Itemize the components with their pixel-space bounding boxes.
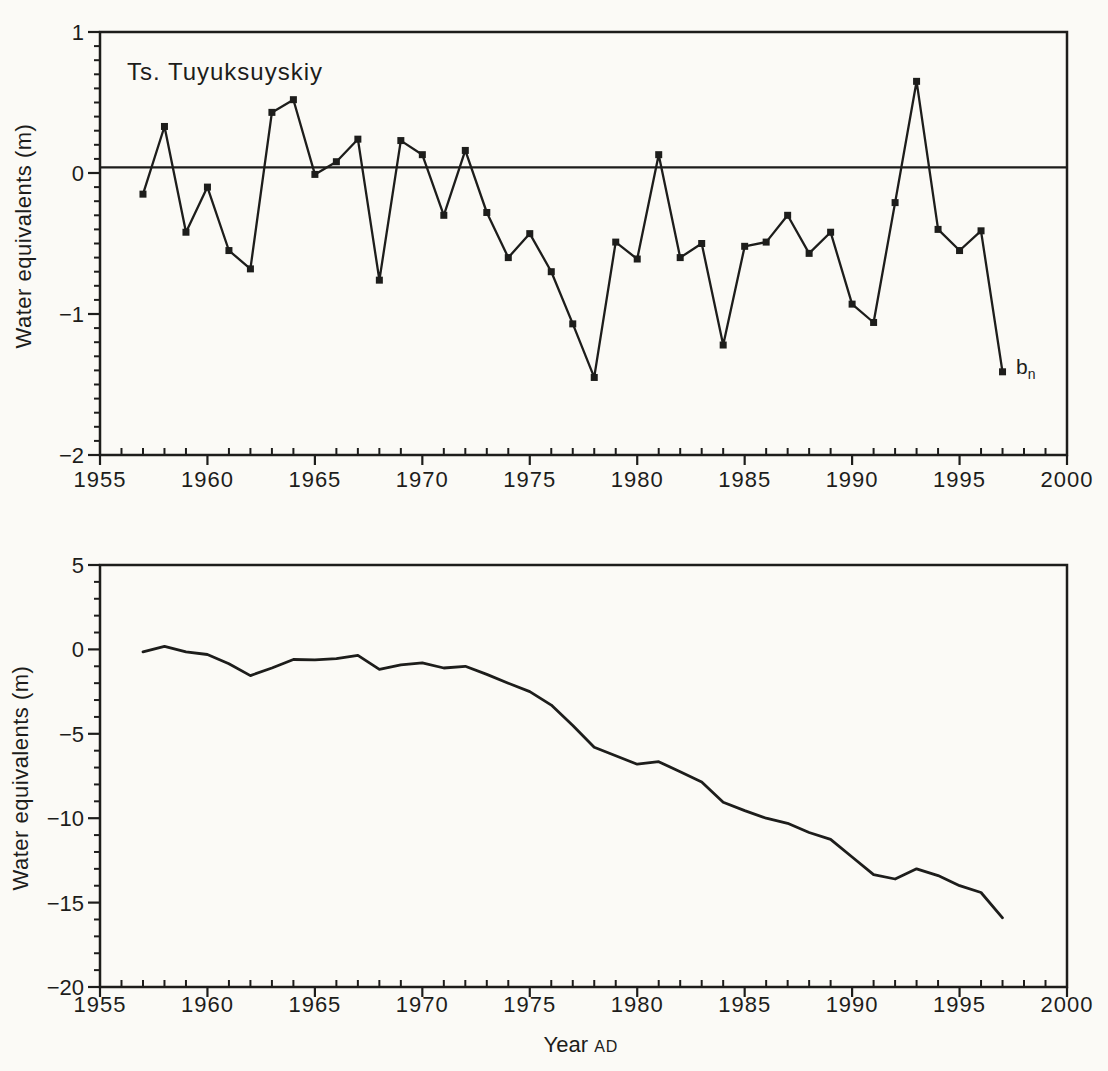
x-tick-label: 1980	[611, 467, 664, 492]
data-point-marker	[892, 199, 899, 206]
data-point-marker	[591, 374, 598, 381]
x-tick-label: 2000	[1041, 467, 1094, 492]
data-point-marker	[999, 368, 1006, 375]
data-point-marker	[376, 277, 383, 284]
data-point-marker	[397, 137, 404, 144]
data-point-marker	[182, 229, 189, 236]
x-tick-label: 2000	[1041, 992, 1094, 1017]
data-point-marker	[440, 212, 447, 219]
data-point-marker	[268, 109, 275, 116]
x-tick-label: 1955	[74, 467, 127, 492]
x-tick-label: 1990	[826, 992, 879, 1017]
data-point-marker	[290, 96, 297, 103]
x-tick-label: 1965	[288, 467, 341, 492]
data-point-marker	[956, 247, 963, 254]
data-point-marker	[784, 212, 791, 219]
x-tick-label: 1975	[503, 467, 556, 492]
data-point-marker	[419, 151, 426, 158]
data-point-marker	[913, 78, 920, 85]
series-label-sub: n	[1028, 366, 1036, 382]
data-point-marker	[311, 171, 318, 178]
y-tick-label: 5	[72, 553, 84, 578]
y-tick-label: −5	[59, 722, 84, 747]
data-point-marker	[483, 209, 490, 216]
data-point-marker	[720, 342, 727, 349]
x-tick-label: 1975	[503, 992, 556, 1017]
y-tick-label: −1	[59, 302, 84, 327]
data-point-marker	[225, 247, 232, 254]
data-point-marker	[247, 265, 254, 272]
data-point-marker	[634, 256, 641, 263]
data-point-marker	[978, 227, 985, 234]
data-point-marker	[548, 268, 555, 275]
x-tick-label: 1970	[396, 467, 449, 492]
chart-title: Ts. Tuyuksuyskiy	[127, 58, 323, 86]
y-tick-label: 1	[72, 20, 84, 45]
data-point-marker	[462, 147, 469, 154]
cumulative-plot-frame	[100, 565, 1067, 987]
data-point-marker	[161, 123, 168, 130]
y-axis-label-annual: Water equivalents (m)	[11, 124, 37, 349]
data-point-marker	[763, 239, 770, 246]
data-point-marker	[333, 158, 340, 165]
data-point-marker	[827, 229, 834, 236]
annual-series-line	[143, 81, 1003, 377]
data-point-marker	[354, 136, 361, 143]
x-tick-label: 1995	[933, 467, 986, 492]
annual-plot-frame	[100, 32, 1067, 455]
data-point-marker	[505, 254, 512, 261]
data-point-marker	[204, 184, 211, 191]
data-point-marker	[741, 243, 748, 250]
data-point-marker	[677, 254, 684, 261]
y-tick-label: −10	[47, 806, 84, 831]
x-tick-label: 1960	[181, 992, 234, 1017]
x-tick-label: 1985	[718, 992, 771, 1017]
y-tick-label: −2	[59, 443, 84, 468]
data-point-marker	[526, 230, 533, 237]
x-tick-label: 1960	[181, 467, 234, 492]
y-tick-label: 0	[72, 161, 84, 186]
x-axis-label: Year AD	[544, 1032, 619, 1058]
y-tick-label: −15	[47, 891, 84, 916]
cumulative-chart: 1955196019651970197519801985199019952000…	[47, 553, 1094, 1017]
data-point-marker	[655, 151, 662, 158]
data-point-marker	[870, 319, 877, 326]
cumulative-series-line	[143, 646, 1003, 917]
data-point-marker	[612, 239, 619, 246]
x-axis-label-text: Year	[544, 1032, 588, 1057]
data-point-marker	[935, 226, 942, 233]
x-axis-label-suffix: AD	[594, 1038, 618, 1055]
data-point-marker	[569, 320, 576, 327]
series-label-base: b	[1016, 355, 1028, 378]
y-tick-label: −20	[47, 975, 84, 1000]
x-tick-label: 1995	[933, 992, 986, 1017]
figure-page: { "page": { "background": "#fbfaf6", "in…	[0, 0, 1108, 1071]
data-point-marker	[806, 250, 813, 257]
x-tick-label: 1980	[611, 992, 664, 1017]
mass-balance-figure: 1955196019651970197519801985199019952000…	[0, 0, 1108, 1071]
series-label-bn: bn	[1016, 355, 1035, 379]
data-point-marker	[139, 191, 146, 198]
y-axis-label-cumulative: Water equivalents (m)	[8, 666, 34, 891]
x-tick-label: 1990	[826, 467, 879, 492]
data-point-marker	[698, 240, 705, 247]
x-tick-label: 1985	[718, 467, 771, 492]
x-tick-label: 1970	[396, 992, 449, 1017]
x-tick-label: 1965	[288, 992, 341, 1017]
y-tick-label: 0	[72, 637, 84, 662]
data-point-marker	[849, 301, 856, 308]
annual-chart: 1955196019651970197519801985199019952000…	[59, 20, 1094, 492]
